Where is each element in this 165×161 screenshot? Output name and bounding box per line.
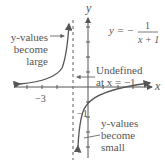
annotation-line: Undefined <box>96 64 142 76</box>
y-tick-label: −1 <box>77 108 88 119</box>
annotation-line: at x = −1 <box>96 76 142 88</box>
annotation-undefined: Undefined at x = −1 <box>96 64 142 88</box>
annotation-line: large <box>4 55 48 67</box>
annotation-line: become <box>4 43 48 55</box>
annotation-line: y-values <box>4 31 48 43</box>
rational-function-graph: y x −3 −1 y = − 1 x + 1 y-values become … <box>0 0 165 161</box>
annotation-line: small <box>101 141 138 153</box>
annotation-lower-right: y-values become small <box>101 117 138 153</box>
equation-numerator: 1 <box>145 20 150 31</box>
equation-lhs: y = − <box>109 25 134 36</box>
annotation-line: become <box>101 129 138 141</box>
annotation-upper-left: y-values become large <box>4 31 48 67</box>
x-tick-label: −3 <box>35 93 46 104</box>
y-axis-label: y <box>86 3 91 14</box>
x-axis-label: x <box>155 81 160 92</box>
pointer-arrow-small <box>84 135 100 138</box>
annotation-line: y-values <box>101 117 138 129</box>
equation-denominator: x + 1 <box>138 34 159 45</box>
